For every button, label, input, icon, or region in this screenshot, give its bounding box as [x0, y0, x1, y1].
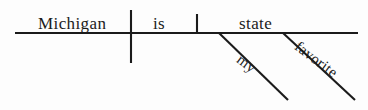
diagram-word-subject: Michigan	[38, 15, 106, 32]
sentence-diagram: Michigan is state my favorite	[0, 0, 368, 110]
diagram-word-verb: is	[153, 15, 165, 32]
diagram-word-complement: state	[239, 15, 272, 32]
